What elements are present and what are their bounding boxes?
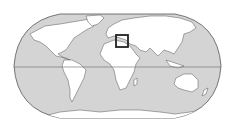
world-map (0, 0, 235, 128)
world-map-svg (0, 0, 235, 128)
